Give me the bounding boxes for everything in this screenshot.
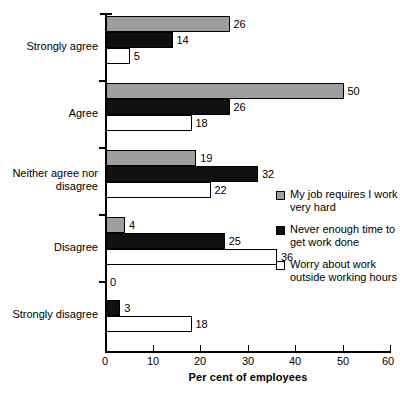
bar-1-1 xyxy=(106,99,230,115)
legend-item-my-job-requires[interactable]: My job requires I work very hard xyxy=(276,188,403,214)
black-square-icon xyxy=(276,226,285,235)
category-label-disagree: Disagree xyxy=(0,241,98,254)
legend-item-label: My job requires I work very hard xyxy=(290,188,403,214)
bar-2-1 xyxy=(106,166,258,182)
bar-value-label: 18 xyxy=(196,316,208,332)
y-axis-group-tick xyxy=(99,80,107,82)
bar-value-label: 25 xyxy=(229,233,241,249)
category-label-strongly-disagree: Strongly disagree xyxy=(0,308,98,321)
x-axis-tick-60 xyxy=(390,345,391,352)
x-axis-tick-label: 40 xyxy=(275,355,315,368)
bar-value-label: 5 xyxy=(134,48,140,64)
x-axis-tick-0 xyxy=(105,345,106,352)
legend-item-worry-about-work[interactable]: Worry about work outside working hours xyxy=(276,258,403,284)
legend-item-label: Worry about work outside working hours xyxy=(290,258,403,284)
bar-value-label: 22 xyxy=(215,182,227,198)
x-axis-tick-40 xyxy=(295,345,296,352)
legend: My job requires I work very hard Never e… xyxy=(276,188,403,293)
x-axis-tick-10 xyxy=(153,345,154,352)
x-axis-tick-label: 30 xyxy=(228,355,268,368)
bar-value-label: 26 xyxy=(234,16,246,32)
bar-value-label: 18 xyxy=(196,115,208,131)
category-label-strongly-agree: Strongly agree xyxy=(0,40,98,53)
gray-square-icon xyxy=(276,191,285,200)
x-axis-tick-label: 10 xyxy=(133,355,173,368)
category-label-agree: Agree xyxy=(0,107,98,120)
x-axis-tick-50 xyxy=(343,345,344,352)
bar-2-2 xyxy=(106,182,211,198)
legend-item-label: Never enough time to get work done xyxy=(290,223,403,249)
bar-1-0 xyxy=(106,83,344,99)
bar-value-label: 0 xyxy=(110,274,116,290)
bar-value-label: 4 xyxy=(129,217,135,233)
x-axis-title: Per cent of employees xyxy=(105,371,391,383)
y-axis-group-tick xyxy=(99,147,107,149)
x-axis-tick-label: 0 xyxy=(85,355,125,368)
bar-1-2 xyxy=(106,115,192,131)
x-axis-tick-30 xyxy=(248,345,249,352)
x-axis-tick-20 xyxy=(200,345,201,352)
bar-value-label: 3 xyxy=(124,300,130,316)
bar-value-label: 19 xyxy=(200,150,212,166)
y-axis-group-tick xyxy=(99,214,107,216)
x-axis-tick-label: 50 xyxy=(323,355,363,368)
legend-item-never-enough-time[interactable]: Never enough time to get work done xyxy=(276,223,403,249)
bar-value-label: 26 xyxy=(234,99,246,115)
x-axis-tick-label: 20 xyxy=(180,355,220,368)
x-axis-tick-label: 60 xyxy=(368,355,403,368)
bar-2-0 xyxy=(106,150,196,166)
category-label-neither: Neither agree nor disagree xyxy=(0,167,98,193)
bar-4-1 xyxy=(106,300,120,316)
bar-chart: 0 10 20 30 40 50 60 Per cent of employee… xyxy=(0,0,403,394)
bar-0-0 xyxy=(106,16,230,32)
white-square-icon xyxy=(276,261,285,270)
bar-3-2 xyxy=(106,249,277,265)
bar-value-label: 32 xyxy=(262,166,274,182)
bar-3-1 xyxy=(106,233,225,249)
bar-4-2 xyxy=(106,316,192,332)
bar-value-label: 50 xyxy=(348,83,360,99)
bar-value-label: 14 xyxy=(177,32,189,48)
bar-3-0 xyxy=(106,217,125,233)
bar-0-2 xyxy=(106,48,130,64)
y-axis-group-tick xyxy=(99,281,107,283)
bar-0-1 xyxy=(106,32,173,48)
